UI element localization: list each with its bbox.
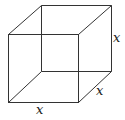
depth-label: x — [96, 83, 104, 98]
back-face — [42, 6, 112, 72]
cube-diagram: x x x — [0, 0, 125, 120]
width-label: x — [36, 102, 44, 117]
height-label: x — [113, 30, 121, 45]
